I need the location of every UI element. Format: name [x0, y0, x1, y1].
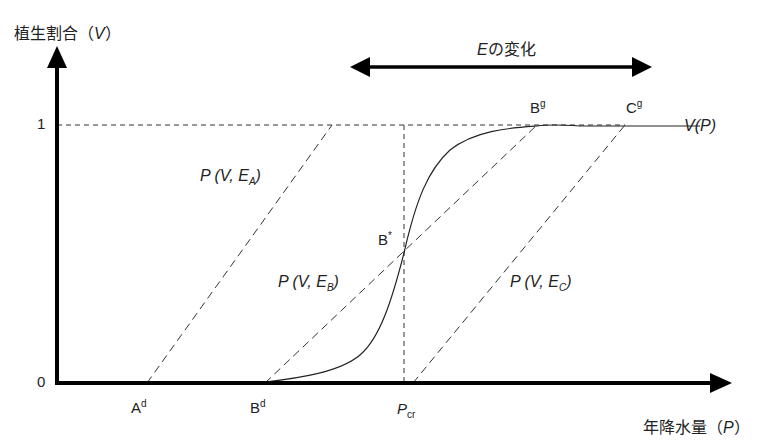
- v-p-label: V(P): [684, 117, 716, 135]
- x-axis-label: 年降水量（P）: [643, 414, 750, 438]
- y-axis-arrowhead: [47, 46, 67, 68]
- v-p-curve: [250, 125, 700, 383]
- e-change-label: Eの変化: [477, 36, 536, 60]
- x-axis-label-text: 年降水量: [643, 419, 707, 436]
- e-change-var: E: [477, 41, 488, 58]
- e-c-label: P (V, EC): [510, 273, 571, 293]
- e-b-label: P (V, EB): [278, 273, 339, 293]
- point-p-cr: Pcr: [397, 400, 415, 420]
- x-axis-label-var: P: [723, 419, 734, 436]
- e-change-text: の変化: [488, 41, 536, 58]
- e-a-label: P (V, EA): [200, 167, 261, 187]
- diagram-canvas: [0, 0, 774, 442]
- e-change-arrow-right-head: [632, 57, 652, 77]
- line-e-c: [413, 125, 625, 383]
- point-b-g: Bg: [530, 98, 546, 116]
- y-axis-label: 植生割合（V）: [14, 20, 121, 44]
- y-axis-label-var: V: [94, 25, 105, 42]
- point-b-d: Bd: [250, 398, 266, 416]
- x-axis-arrowhead: [710, 373, 732, 393]
- y-tick-1: 1: [37, 115, 45, 132]
- point-a-d: Ad: [131, 398, 147, 416]
- line-e-b: [265, 125, 537, 383]
- point-b-star: B*: [378, 230, 392, 248]
- point-c-g: Cg: [626, 98, 642, 116]
- line-e-a: [147, 125, 332, 383]
- e-change-arrow-left-head: [350, 57, 370, 77]
- y-axis-label-text: 植生割合: [14, 25, 78, 42]
- y-tick-0: 0: [37, 373, 45, 390]
